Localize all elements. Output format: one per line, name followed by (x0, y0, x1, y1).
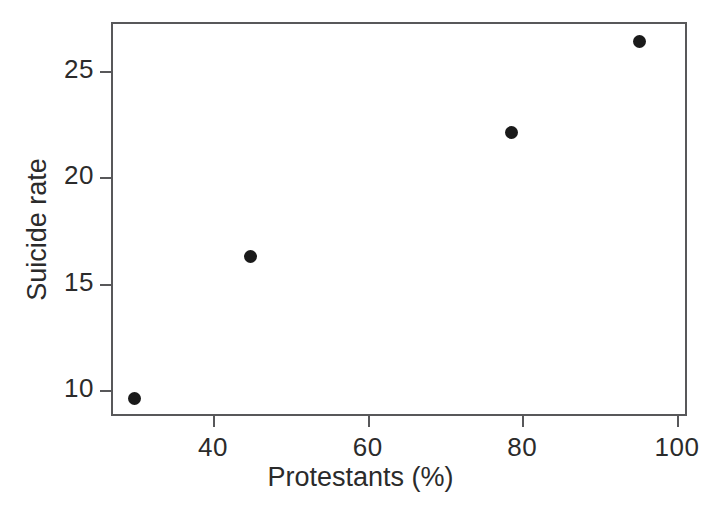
y-axis-tick (100, 71, 111, 73)
y-axis-tick (100, 177, 111, 179)
scatter-plot-figure: 10152025406080100 Suicide rate Protestan… (0, 0, 721, 510)
x-axis-tick (368, 416, 370, 427)
x-axis-tick (213, 416, 215, 427)
data-point (633, 35, 646, 48)
x-axis-tick-label: 100 (632, 432, 721, 463)
y-axis-tick (100, 284, 111, 286)
data-point (128, 392, 141, 405)
x-axis-tick-label: 60 (323, 432, 413, 463)
x-axis-tick-label: 80 (477, 432, 567, 463)
x-axis-label: Protestants (%) (0, 462, 721, 493)
y-axis-tick-label: 25 (38, 54, 94, 85)
y-axis-label: Suicide rate (22, 120, 53, 340)
y-axis-tick (100, 390, 111, 392)
y-axis-tick-label: 10 (38, 373, 94, 404)
data-point-layer (111, 22, 687, 416)
x-axis-tick (677, 416, 679, 427)
data-point (505, 126, 518, 139)
x-axis-tick (522, 416, 524, 427)
x-axis-tick-label: 40 (168, 432, 258, 463)
data-point (244, 250, 257, 263)
